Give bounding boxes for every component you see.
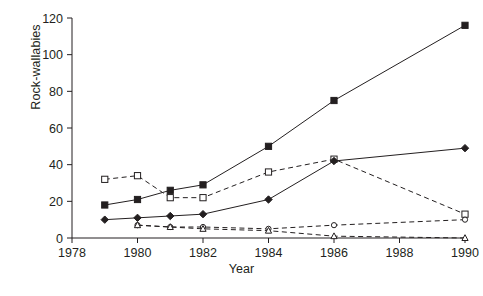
data-point-filled-square — [102, 202, 108, 208]
data-point-open-square — [200, 195, 206, 201]
x-axis-label: Year — [0, 262, 483, 276]
data-point-filled-diamond — [461, 144, 468, 151]
data-point-open-square — [462, 211, 468, 217]
y-tick-label: 60 — [49, 122, 63, 136]
data-point-open-square — [265, 169, 271, 175]
figure-container: Rock-wallabies 0204060801001201978198019… — [0, 0, 483, 296]
data-point-filled-diamond — [265, 196, 272, 203]
data-point-filled-diamond — [199, 210, 206, 217]
data-point-open-square — [134, 173, 140, 179]
data-point-filled-square — [134, 196, 140, 202]
data-point-filled-square — [167, 187, 173, 193]
y-tick-label: 100 — [42, 48, 63, 62]
data-point-open-circle — [462, 217, 467, 222]
line-chart-plot: 0204060801001201978198019821984198619881… — [0, 0, 483, 296]
x-tick-label: 1984 — [255, 246, 283, 260]
data-point-filled-diamond — [101, 216, 108, 223]
data-point-filled-square — [200, 182, 206, 188]
y-tick-label: 120 — [42, 12, 63, 26]
y-tick-label: 40 — [49, 158, 63, 172]
data-point-filled-square — [462, 22, 468, 28]
data-point-open-square — [167, 195, 173, 201]
data-point-filled-diamond — [134, 214, 141, 221]
x-tick-label: 1978 — [58, 246, 86, 260]
y-tick-label: 0 — [56, 232, 63, 246]
data-point-open-square — [102, 176, 108, 182]
x-tick-label: 1986 — [320, 246, 348, 260]
data-point-open-circle — [331, 223, 336, 228]
x-tick-label: 1980 — [124, 246, 152, 260]
data-point-filled-square — [265, 143, 271, 149]
data-point-filled-square — [331, 97, 337, 103]
y-tick-label: 20 — [49, 195, 63, 209]
x-tick-label: 1990 — [451, 246, 479, 260]
x-tick-label: 1988 — [386, 246, 414, 260]
x-tick-label: 1982 — [189, 246, 217, 260]
series-line-open-square-dashed — [105, 159, 465, 214]
series-line-filled-square-solid — [105, 25, 465, 205]
data-point-filled-diamond — [167, 212, 174, 219]
y-tick-label: 80 — [49, 85, 63, 99]
series-line-filled-diamond-solid — [105, 148, 465, 220]
series-line-open-circle-dashed — [138, 220, 466, 229]
